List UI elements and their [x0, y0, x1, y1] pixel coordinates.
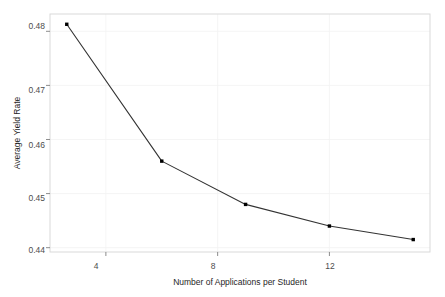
x-tick-label: 12	[325, 261, 335, 271]
y-axis-title: Average Yield Rate	[12, 96, 22, 169]
y-tick-label: 0.46	[28, 140, 45, 150]
x-tick-label: 8	[211, 261, 216, 271]
y-tick-label: 0.45	[28, 193, 45, 203]
x-axis-tick-marks	[106, 252, 330, 256]
data-point-marker	[65, 23, 68, 26]
y-tick-label: 0.48	[28, 21, 45, 31]
data-point-marker	[328, 224, 331, 227]
x-axis-title: Number of Applications per Student	[173, 277, 307, 287]
plot-panel-background	[50, 14, 430, 252]
data-point-marker	[244, 203, 247, 206]
line-chart-canvas: 0.44 0.45 0.46 0.47 0.48 4 8 12 Number o…	[0, 0, 445, 297]
data-point-marker	[160, 159, 163, 162]
y-tick-label: 0.47	[28, 85, 45, 95]
chart-figure: 0.44 0.45 0.46 0.47 0.48 4 8 12 Number o…	[0, 0, 445, 297]
y-tick-label: 0.44	[28, 245, 45, 255]
x-tick-label: 4	[94, 261, 99, 271]
y-axis-tick-marks	[46, 31, 50, 247]
data-point-marker	[412, 238, 415, 241]
